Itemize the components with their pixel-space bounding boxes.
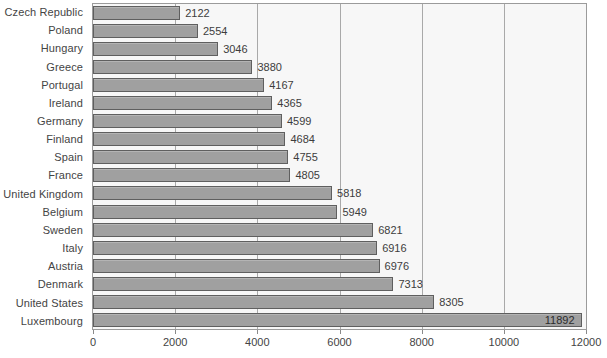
bar-value-label: 4805 [295,169,319,181]
bar-row: 11892 [93,313,586,327]
category-label: France [0,169,90,181]
plot-area: 2122255430463880416743654599468447554805… [92,3,587,330]
bar-value-label: 8305 [439,296,463,308]
bar-value-label: 5818 [337,187,361,199]
bar-value-label: 11892 [545,314,575,326]
bar [93,132,285,146]
bar-row: 4599 [93,114,586,128]
tick-label: 6000 [327,336,351,348]
tick-mark-12000 [586,330,587,334]
bar-value-label: 4167 [269,79,293,91]
category-label: Poland [0,24,90,36]
tick-label: 2000 [163,336,187,348]
bar [93,168,290,182]
bar-row: 6916 [93,241,586,255]
bar-row: 4755 [93,150,586,164]
category-axis: Czech RepublicPolandHungaryGreecePortuga… [0,3,90,330]
bar [93,24,198,38]
bar-value-label: 4755 [293,151,317,163]
bar [93,78,264,92]
category-label: Ireland [0,97,90,109]
bar-value-label: 4365 [277,97,301,109]
bar [93,60,252,74]
bar-row: 3046 [93,42,586,56]
category-label: Finland [0,133,90,145]
bar [93,114,282,128]
tick-label: 4000 [245,336,269,348]
bar [93,259,380,273]
category-label: United States [0,297,90,309]
category-label: Luxembourg [0,315,90,327]
category-label: Portugal [0,79,90,91]
bar-value-label: 5949 [342,206,366,218]
bar [93,295,434,309]
bar [93,223,373,237]
category-label: United Kingdom [0,188,90,200]
bar-value-label: 3046 [223,43,247,55]
bar [93,96,272,110]
tick-label: 0 [90,336,96,348]
tick-mark-10000 [504,330,505,334]
bar-row: 6821 [93,223,586,237]
bar-row: 8305 [93,295,586,309]
bar [93,186,332,200]
bar-row: 6976 [93,259,586,273]
tick-mark-8000 [422,330,423,334]
tick-label: 12000 [571,336,602,348]
bar-value-label: 3880 [257,61,281,73]
bar [93,42,218,56]
bar-value-label: 6916 [382,242,406,254]
bar-row: 5949 [93,205,586,219]
bar-row: 2554 [93,24,586,38]
bar-value-label: 7313 [398,278,422,290]
plot-inner: 2122255430463880416743654599468447554805… [93,4,586,329]
category-label: Spain [0,151,90,163]
category-label: Belgium [0,206,90,218]
bar-row: 4167 [93,78,586,92]
bar-row: 7313 [93,277,586,291]
bar-value-label: 4684 [290,133,314,145]
bar [93,277,393,291]
bar-row: 2122 [93,6,586,20]
tick-label: 10000 [489,336,520,348]
tick-mark-2000 [175,330,176,334]
tick-mark-6000 [340,330,341,334]
bar [93,6,180,20]
bar-chart: Czech RepublicPolandHungaryGreecePortuga… [0,0,607,358]
category-label: Czech Republic [0,6,90,18]
bar [93,150,288,164]
category-label: Germany [0,115,90,127]
bar-value-label: 4599 [287,115,311,127]
bar: 11892 [93,313,582,327]
value-axis: 020004000600080001000012000 [92,330,587,356]
category-label: Austria [0,260,90,272]
bar-value-label: 2122 [185,7,209,19]
category-label: Greece [0,61,90,73]
tick-label: 8000 [409,336,433,348]
category-label: Italy [0,242,90,254]
bar [93,205,337,219]
bar-value-label: 6976 [385,260,409,272]
category-label: Hungary [0,42,90,54]
bar-value-label: 6821 [378,224,402,236]
bar-row: 4684 [93,132,586,146]
bar-row: 5818 [93,186,586,200]
category-label: Sweden [0,224,90,236]
bar-value-label: 2554 [203,25,227,37]
category-label: Denmark [0,278,90,290]
bar [93,241,377,255]
tick-mark-4000 [257,330,258,334]
bars-container: 2122255430463880416743654599468447554805… [93,4,586,329]
bar-row: 3880 [93,60,586,74]
bar-row: 4365 [93,96,586,110]
tick-mark-0 [93,330,94,334]
bar-row: 4805 [93,168,586,182]
